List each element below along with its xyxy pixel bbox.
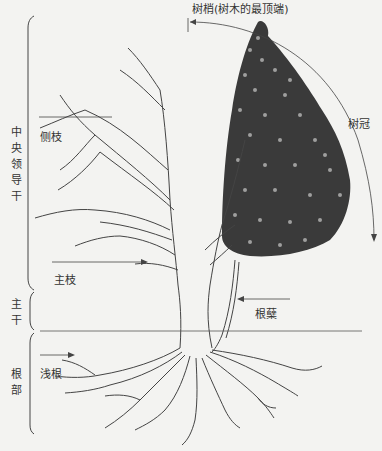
label-central-leader: 中央领导干 [10,125,22,205]
bracket-root [30,333,34,434]
label-treetop: 树梢(树木的最顶端) [192,0,289,16]
label-root-tiller: 根蘖 [255,305,277,321]
label-root: 根部 [10,367,22,399]
tree-trunk [35,48,245,352]
tree-diagram [0,0,382,451]
foliage-crown [222,21,350,256]
label-lateral-branch: 侧枝 [40,128,62,144]
label-trunk: 主干 [10,297,22,329]
label-shallow-root: 浅根 [40,365,62,381]
roots [55,348,322,445]
label-crown: 树冠 [348,115,370,131]
bracket-trunk [30,292,34,330]
label-main-branch: 主枝 [54,271,76,287]
bracket-central-leader [28,16,34,290]
